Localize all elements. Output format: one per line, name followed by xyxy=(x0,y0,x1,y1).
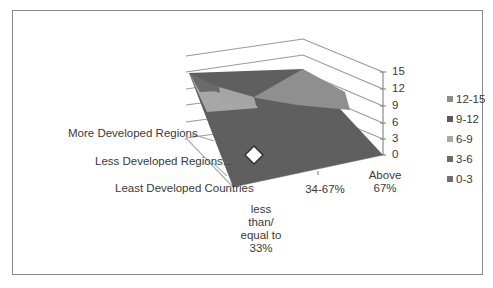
y-label-less-developed: Less Developed Regions... xyxy=(95,155,232,168)
x-label-le-33: less than/ equal to 33% xyxy=(236,203,286,255)
legend-item-12-15: 12-15 xyxy=(447,89,485,109)
z-tick-0: 0 xyxy=(392,148,398,161)
legend-swatch xyxy=(447,116,453,122)
legend: 12-15 9-12 6-9 3-6 0-3 xyxy=(447,89,485,189)
x-label-above-67: Above 67% xyxy=(360,169,410,195)
legend-swatch xyxy=(447,96,453,102)
z-tick-12: 12 xyxy=(392,82,405,95)
z-tick-15: 15 xyxy=(392,65,405,78)
legend-swatch xyxy=(447,176,453,182)
z-tick-3: 3 xyxy=(392,132,398,145)
legend-swatch xyxy=(447,156,453,162)
y-label-least-developed: Least Developed Countries xyxy=(115,182,254,195)
y-label-more-developed: More Developed Regions xyxy=(68,127,198,140)
surface-bands xyxy=(189,69,383,187)
legend-item-3-6: 3-6 xyxy=(447,149,485,169)
z-tick-6: 6 xyxy=(392,116,398,129)
x-label-34-67: 34-67% xyxy=(300,183,350,196)
legend-item-0-3: 0-3 xyxy=(447,169,485,189)
legend-swatch xyxy=(447,136,453,142)
z-tick-9: 9 xyxy=(392,99,398,112)
legend-item-9-12: 9-12 xyxy=(447,109,485,129)
legend-item-6-9: 6-9 xyxy=(447,129,485,149)
